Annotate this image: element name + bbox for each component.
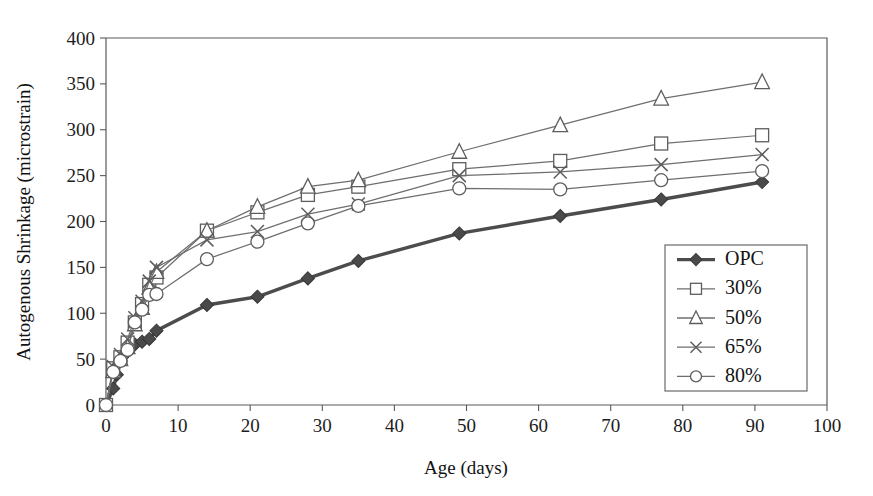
data-point-marker [200,298,213,311]
data-point-marker [121,343,134,356]
x-tick-label: 40 [385,415,404,436]
legend-label: 30% [725,276,762,298]
y-axis-ticks: 050100150200250300350400 [67,28,107,416]
data-point-marker [756,129,769,142]
data-point-marker [453,182,466,195]
data-point-marker [554,183,567,196]
x-tick-label: 60 [529,415,548,436]
data-point-marker [301,217,314,230]
data-point-marker [453,227,466,240]
legend-label: 80% [725,364,762,386]
y-axis-title: Autogenous Shrinkage (microstrain) [13,83,35,361]
data-point-marker [691,283,702,294]
x-tick-label: 20 [241,415,260,436]
y-tick-label: 0 [86,395,96,416]
x-tick-label: 0 [101,415,111,436]
x-tick-label: 80 [673,415,692,436]
data-point-marker [150,287,163,300]
data-point-marker [352,199,365,212]
y-tick-label: 300 [67,119,96,140]
legend-label: 65% [725,335,762,357]
data-point-marker [755,74,770,89]
y-tick-label: 100 [67,303,96,324]
data-point-marker [351,172,366,187]
data-point-marker [301,272,314,285]
chart-canvas: 050100150200250300350400 010203040506070… [0,0,873,496]
data-point-marker [756,165,769,178]
x-axis-ticks: 0102030405060708090100 [101,405,841,436]
data-point-marker [100,399,113,412]
data-point-marker [655,174,668,187]
data-point-marker [655,193,668,206]
series-line [106,182,762,405]
x-tick-label: 30 [313,415,332,436]
chart-figure: 050100150200250300350400 010203040506070… [0,0,873,496]
data-point-marker [655,137,668,150]
data-point-marker [453,163,466,176]
x-axis-title: Age (days) [424,457,508,479]
data-point-marker [554,154,567,167]
y-tick-label: 400 [67,28,96,49]
y-tick-label: 250 [67,165,96,186]
series-line [106,82,762,405]
data-point-marker [136,303,149,316]
y-tick-label: 350 [67,73,96,94]
data-point-marker [352,254,365,267]
legend-label: 50% [725,306,762,328]
y-tick-label: 200 [67,211,96,232]
data-point-marker [128,316,141,329]
y-tick-label: 150 [67,257,96,278]
series-line [106,155,762,405]
data-point-marker [200,253,213,266]
chart-legend[interactable]: OPC30%50%65%80% [665,245,807,391]
x-tick-label: 70 [601,415,620,436]
x-tick-label: 50 [457,415,476,436]
data-point-marker [251,290,264,303]
data-point-marker [251,235,264,248]
x-tick-label: 10 [169,415,188,436]
data-point-marker [691,371,702,382]
data-point-marker [554,209,567,222]
y-tick-label: 50 [76,349,95,370]
x-tick-label: 90 [745,415,764,436]
legend-label: OPC [725,247,764,269]
x-tick-label: 100 [813,415,842,436]
series-line [106,171,762,405]
